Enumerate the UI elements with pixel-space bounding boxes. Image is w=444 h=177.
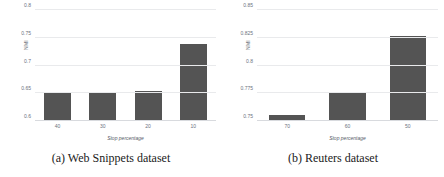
gridline: 0.6 [35,120,216,121]
bar [89,92,116,121]
x-tick-labels-b: 706050 [257,124,438,129]
gridline: 0.7 [35,65,216,66]
bar-slot [317,10,377,121]
panel-web-snippets: NMI 0.60.650.70.750.8 40302010 Stop perc… [0,0,222,177]
bar-slot [80,10,125,121]
gridline: 0.8 [257,65,438,66]
x-axis-title-a: Stop percentage [35,136,216,141]
gridline: 0.75 [35,37,216,38]
gridline: 0.825 [257,37,438,38]
bar-series-a [35,10,216,121]
figure-two-panel-bar-charts: NMI 0.60.650.70.750.8 40302010 Stop perc… [0,0,444,177]
bar-slot [257,10,317,121]
plot-area-a: NMI 0.60.650.70.750.8 40302010 Stop perc… [0,0,222,148]
y-tick-label: 0.775 [240,86,253,91]
bar [135,91,162,121]
bar [329,93,365,121]
gridline: 0.775 [257,92,438,93]
x-axis-title-b: Stop percentage [257,136,438,141]
y-tick-label: 0.6 [24,114,31,119]
y-tick-label: 0.75 [21,30,31,35]
bar-slot [126,10,171,121]
x-tick-label: 50 [378,124,438,129]
y-tick-label: 0.825 [240,30,253,35]
subfigure-caption-b: (b) Reuters dataset [222,148,444,177]
panel-reuters: NMI 0.750.7750.80.8250.85 706050 Stop pe… [222,0,444,177]
gridline: 0.65 [35,92,216,93]
x-tick-label: 60 [317,124,377,129]
x-tick-label: 20 [126,124,171,129]
y-tick-label: 0.75 [243,114,253,119]
x-tick-label: 70 [257,124,317,129]
y-tick-label: 0.8 [246,58,253,63]
axes-a: 0.60.650.70.750.8 [35,10,216,121]
y-tick-label: 0.7 [24,58,31,63]
y-tick-label: 0.85 [243,3,253,8]
bar-series-b [257,10,438,121]
y-tick-label: 0.65 [21,86,31,91]
bar [180,44,207,121]
x-tick-label: 30 [80,124,125,129]
bar [44,92,71,121]
plot-area-b: NMI 0.750.7750.80.8250.85 706050 Stop pe… [222,0,444,148]
gridline: 0.8 [35,9,216,10]
bar-slot [378,10,438,121]
bar-slot [35,10,80,121]
x-tick-label: 10 [171,124,216,129]
gridline: 0.85 [257,9,438,10]
y-tick-label: 0.8 [24,3,31,8]
bar-slot [171,10,216,121]
axes-b: 0.750.7750.80.8250.85 [257,10,438,121]
bar [390,36,426,121]
gridline: 0.75 [257,120,438,121]
x-tick-labels-a: 40302010 [35,124,216,129]
subfigure-caption-a: (a) Web Snippets dataset [0,148,222,177]
x-tick-label: 40 [35,124,80,129]
